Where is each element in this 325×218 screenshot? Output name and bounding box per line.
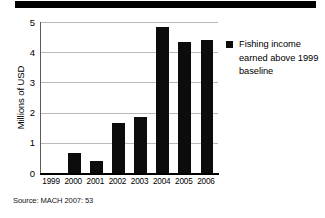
- x-tick-label: 2005: [173, 177, 195, 187]
- bar: [201, 40, 214, 173]
- y-axis-tick-labels: 012345: [22, 14, 35, 174]
- bar: [112, 123, 125, 173]
- x-axis-line: [40, 173, 219, 175]
- y-tick-label: 0: [22, 169, 35, 178]
- x-tick-label: 2000: [62, 177, 84, 187]
- x-tick-label: 2002: [106, 177, 128, 187]
- x-tick-label: 2004: [151, 177, 173, 187]
- x-axis-tick-labels: 19992000200120022003200420052006: [40, 177, 217, 191]
- y-tick-label: 4: [22, 48, 35, 57]
- x-tick-label: 2001: [84, 177, 106, 187]
- y-tick-label: 3: [22, 78, 35, 87]
- y-tick-label: 2: [22, 108, 35, 117]
- y-tick-label: 1: [22, 138, 35, 147]
- bar: [156, 27, 169, 173]
- legend-swatch-icon: [226, 41, 233, 48]
- x-tick-label: 1999: [40, 177, 62, 187]
- source-note: Source: MACH 2007: 53: [13, 196, 93, 205]
- bar: [134, 117, 147, 173]
- bar: [90, 161, 103, 173]
- bar-series: [41, 22, 218, 173]
- x-tick-label: 2006: [195, 177, 217, 187]
- top-rule: [15, 1, 316, 8]
- bar-chart: Millions of USD 012345 19992000200120022…: [0, 14, 325, 189]
- x-tick-label: 2003: [129, 177, 151, 187]
- plot-area: [40, 22, 218, 173]
- figure-container: Millions of USD 012345 19992000200120022…: [0, 0, 325, 218]
- bar: [68, 153, 81, 173]
- legend-label: Fishing income earned above 1999 baselin…: [239, 38, 321, 79]
- bar: [178, 42, 191, 173]
- y-tick-label: 5: [22, 18, 35, 27]
